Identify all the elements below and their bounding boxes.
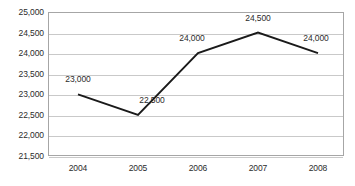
y-tick-label: 22,500 bbox=[0, 110, 44, 119]
gridline bbox=[49, 95, 343, 96]
point-value-label: 24,000 bbox=[179, 33, 204, 43]
gridline bbox=[49, 116, 343, 117]
point-value-label: 22,500 bbox=[139, 95, 164, 105]
y-tick-label: 23,500 bbox=[0, 69, 44, 78]
y-tick-label: 23,000 bbox=[0, 90, 44, 99]
y-tick-label: 24,000 bbox=[0, 49, 44, 58]
x-tick-label: 2006 bbox=[178, 163, 218, 173]
gridline bbox=[49, 75, 343, 76]
x-axis: 20042005200620072008 bbox=[0, 163, 355, 177]
point-value-label: 24,500 bbox=[245, 13, 270, 23]
x-tick-label: 2007 bbox=[238, 163, 278, 173]
gridline bbox=[49, 136, 343, 137]
x-tick-label: 2008 bbox=[298, 163, 338, 173]
y-tick-label: 21,500 bbox=[0, 152, 44, 161]
gridline bbox=[49, 157, 343, 158]
point-value-label: 24,000 bbox=[303, 33, 328, 43]
point-value-label: 23,000 bbox=[65, 74, 90, 84]
x-tick-label: 2004 bbox=[58, 163, 98, 173]
y-axis: 25,00024,50024,00023,50023,00022,50022,0… bbox=[0, 12, 44, 156]
y-tick-label: 22,000 bbox=[0, 131, 44, 140]
line-chart: 25,00024,50024,00023,50023,00022,50022,0… bbox=[0, 0, 355, 186]
y-tick-label: 24,500 bbox=[0, 28, 44, 37]
y-tick-label: 25,000 bbox=[0, 8, 44, 17]
chart-title-cropped bbox=[0, 0, 355, 3]
x-tick-label: 2005 bbox=[118, 163, 158, 173]
gridline bbox=[49, 54, 343, 55]
